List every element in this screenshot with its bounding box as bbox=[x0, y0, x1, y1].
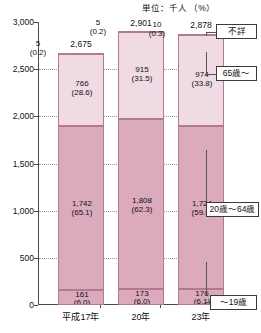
legend-leader-youth-h bbox=[206, 302, 210, 303]
legend-leader-youth-v bbox=[206, 262, 207, 295]
x-tickmark-1 bbox=[100, 305, 101, 308]
segment-adult-value-heisei17: 1,742 bbox=[59, 199, 104, 208]
unknown-value-heisei17: 5 bbox=[18, 39, 58, 48]
legend-item-youth[interactable]: ～19歳 bbox=[210, 295, 257, 310]
segment-youth-heisei17[interactable]: 161 (6.0) bbox=[58, 290, 104, 305]
segment-adult-pct-heisei17: (65.1) bbox=[59, 208, 104, 217]
y-tick-1500: 1,500 bbox=[13, 159, 34, 169]
segment-senior-pct-heisei17: (28.6) bbox=[59, 88, 104, 97]
y-tickmark-500 bbox=[34, 258, 38, 259]
segment-adult-pct-heisei20: (62.3) bbox=[119, 205, 164, 214]
legend-leader-unknown-h bbox=[206, 32, 216, 33]
segment-youth-pct-heisei17: (6.0) bbox=[59, 298, 104, 305]
segment-youth-pct-heisei20: (6.0) bbox=[119, 297, 164, 305]
legend-leader-senior-v bbox=[206, 52, 207, 74]
segment-senior-heisei20[interactable]: 915 (31.5) bbox=[118, 32, 164, 118]
unknown-value-heisei20: 5 bbox=[78, 18, 118, 27]
segment-youth-heisei20[interactable]: 173 (6.0) bbox=[118, 289, 164, 305]
y-axis-labels: 0 500 1,000 1,500 2,000 2,500 3,000 bbox=[0, 22, 34, 305]
unknown-pct-heisei23: (0.3) bbox=[137, 29, 177, 38]
unknown-value-heisei23: 10 bbox=[137, 20, 177, 29]
y-tickmark-3000 bbox=[34, 22, 38, 23]
y-tickmark-1500 bbox=[34, 164, 38, 165]
plot-area: 766 (28.6) 1,742 (65.1) 161 (6.0) 2,675 … bbox=[38, 22, 223, 305]
y-tickmark-0 bbox=[34, 305, 38, 306]
segment-senior-value-heisei17: 766 bbox=[59, 79, 104, 88]
y-tickmark-1000 bbox=[34, 211, 38, 212]
x-label-heisei23: 23年 bbox=[166, 310, 236, 323]
y-tick-500: 500 bbox=[20, 253, 34, 263]
legend-item-adult[interactable]: 20歳～64歳 bbox=[206, 202, 259, 217]
segment-adult-heisei17[interactable]: 1,742 (65.1) bbox=[58, 126, 104, 290]
segment-senior-heisei17[interactable]: 766 (28.6) bbox=[58, 54, 104, 126]
x-tickmark-2 bbox=[160, 305, 161, 308]
unknown-pct-heisei17: (0.2) bbox=[18, 48, 58, 57]
legend-leader-unknown-v bbox=[206, 32, 207, 36]
segment-adult-heisei20[interactable]: 1,808 (62.3) bbox=[118, 119, 164, 290]
legend-item-unknown[interactable]: 不詳 bbox=[216, 24, 257, 39]
y-tickmark-2500 bbox=[34, 69, 38, 70]
y-tick-2000: 2,000 bbox=[13, 111, 34, 121]
legend-item-senior[interactable]: 65歳～ bbox=[216, 66, 257, 81]
segment-senior-value-heisei20: 915 bbox=[119, 65, 164, 74]
unknown-pct-heisei20: (0.2) bbox=[78, 27, 118, 36]
segment-adult-value-heisei20: 1,808 bbox=[119, 196, 164, 205]
segment-senior-pct-heisei20: (31.5) bbox=[119, 74, 164, 83]
y-tickmark-2000 bbox=[34, 116, 38, 117]
legend-leader-senior-h bbox=[206, 74, 216, 75]
bar-total-heisei17: 2,675 bbox=[51, 39, 111, 49]
chart-root: 単位：千人 （%） 0 500 1,000 1,500 2,000 2,500 … bbox=[0, 0, 261, 333]
y-tick-2500: 2,500 bbox=[13, 64, 34, 74]
y-tick-1000: 1,000 bbox=[13, 206, 34, 216]
y-tick-3000: 3,000 bbox=[13, 17, 34, 27]
legend-leader-adult-v bbox=[206, 150, 207, 202]
unit-caption: 単位：千人 （%） bbox=[142, 1, 215, 13]
